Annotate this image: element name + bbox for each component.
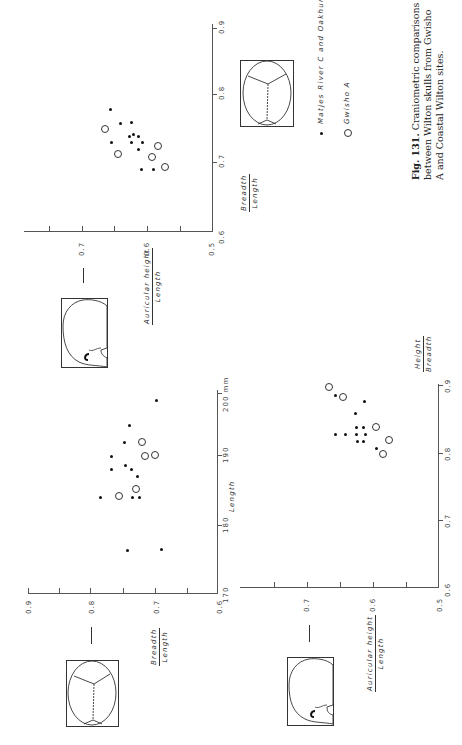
point-matjes: [362, 440, 365, 443]
tick-label: 200 mm: [222, 377, 230, 412]
tick: [28, 588, 29, 593]
point-matjes: [355, 433, 358, 436]
tick: [212, 162, 217, 163]
tick-label: 0.8: [444, 447, 452, 461]
point-gwisho: [132, 485, 140, 493]
point-matjes: [140, 168, 143, 171]
skull-superior-icon: [66, 660, 120, 728]
label-denominator: Breadth: [424, 336, 433, 372]
point-gwisho: [138, 438, 146, 446]
tick: [123, 588, 124, 593]
point-matjes: [363, 400, 366, 403]
tick: [438, 520, 443, 521]
caption-line-2: between Wilton skulls from Gwisho: [422, 3, 434, 180]
point-matjes: [334, 433, 337, 436]
x-axis-label: Length: [228, 481, 236, 512]
figure-caption: Fig. 131. Craniometric comparisons betwe…: [410, 3, 446, 180]
point-gwisho: [115, 492, 123, 500]
tick-label: 0.9: [218, 20, 226, 34]
point-matjes: [130, 121, 133, 124]
point-matjes: [138, 496, 141, 499]
point-matjes: [137, 135, 140, 138]
axis-breadth-length: [212, 24, 213, 232]
tick: [59, 588, 60, 593]
legend-dot-marker: [320, 132, 323, 135]
point-matjes: [355, 426, 358, 429]
legend-label-gwisho: Gwisho A: [343, 81, 351, 124]
tick: [49, 226, 50, 231]
point-matjes: [362, 426, 365, 429]
y-axis-label: Auricular height Length: [143, 248, 162, 325]
reference-mark: [309, 625, 310, 642]
point-gwisho: [114, 150, 122, 158]
point-matjes: [119, 122, 122, 125]
tick-label: 0.8: [218, 86, 226, 100]
point-matjes: [141, 141, 144, 144]
point-matjes: [110, 455, 113, 458]
tick: [155, 588, 156, 593]
axis-length: [217, 390, 218, 594]
point-gwisho: [339, 393, 347, 401]
label-numerator: Auricular height: [143, 248, 153, 325]
point-matjes: [354, 412, 357, 415]
point-matjes: [124, 464, 127, 467]
point-gwisho: [325, 383, 333, 391]
legend-circle-marker: [344, 129, 352, 137]
point-gwisho: [148, 153, 156, 161]
tick-label: 0.7: [78, 242, 86, 256]
tick-label: 0.5: [436, 598, 444, 612]
point-matjes: [110, 468, 113, 471]
tick: [114, 226, 115, 231]
caption-text: Craniometric comparisons: [410, 3, 421, 131]
tick-label: 0.6: [369, 598, 377, 612]
tick: [180, 226, 181, 231]
x-axis-label: Breadth Length: [240, 174, 259, 212]
point-matjes: [123, 441, 126, 444]
point-matjes: [356, 440, 359, 443]
legend-label-matjes: Matjes River C and Oakhurst: [317, 0, 325, 124]
tick-label: 0.7: [303, 598, 311, 612]
caption-line-3: A and Coastal Wilton sites.: [434, 3, 446, 180]
axis-height-breadth: [438, 384, 439, 588]
label-denominator: Length: [376, 615, 385, 692]
tick-label: 0.7: [444, 514, 452, 528]
point-gwisho: [379, 450, 387, 458]
tick-label: 0.7: [218, 154, 226, 168]
tick: [212, 28, 217, 29]
label-numerator: Auricular height: [366, 615, 376, 692]
point-matjes: [132, 133, 135, 136]
point-matjes: [160, 548, 163, 551]
label-numerator: Breadth: [150, 628, 160, 666]
point-matjes: [130, 141, 133, 144]
label-denominator: Length: [250, 174, 259, 212]
label-numerator: Height: [414, 336, 424, 372]
tick-label: 0.6: [218, 230, 226, 244]
point-matjes: [109, 108, 112, 111]
skull-lateral-icon: [287, 657, 337, 727]
point-matjes: [152, 168, 155, 171]
tick: [340, 582, 341, 587]
tick: [406, 582, 407, 587]
tick-label: 0.8: [88, 600, 96, 614]
tick: [438, 385, 443, 386]
tick: [187, 588, 188, 593]
point-gwisho: [385, 436, 393, 444]
tick: [82, 226, 83, 231]
point-matjes: [126, 549, 129, 552]
point-gwisho: [161, 163, 169, 171]
point-gwisho: [141, 452, 149, 460]
tick-label: 0.6: [216, 600, 224, 614]
x-axis-label: Height Breadth: [414, 336, 433, 372]
tick-label: 0.7: [153, 600, 161, 614]
reference-mark: [91, 627, 92, 644]
tick: [90, 588, 91, 593]
label-denominator: Length: [160, 628, 169, 666]
point-matjes: [344, 433, 347, 436]
point-matjes: [136, 475, 139, 478]
point-gwisho: [101, 125, 109, 133]
point-matjes: [99, 496, 102, 499]
point-matjes: [131, 496, 134, 499]
tick: [274, 582, 275, 587]
tick-label: 0.6: [444, 583, 452, 597]
point-matjes: [375, 447, 378, 450]
